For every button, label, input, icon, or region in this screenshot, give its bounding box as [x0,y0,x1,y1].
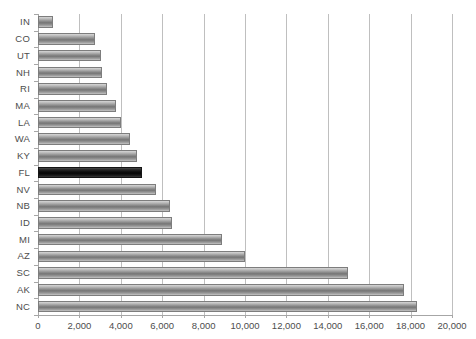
bar-az[interactable] [38,251,245,263]
bar-row [38,47,452,64]
x-axis-tick [38,315,39,318]
bar-nc[interactable] [38,301,417,313]
y-axis-label-nv: NV [0,185,30,195]
bar-row [38,131,452,148]
x-axis-labels: 02,0004,0006,0008,00010,00012,00014,0001… [0,318,476,338]
bar-row [38,14,452,31]
y-axis-label-fl: FL [0,168,30,178]
x-axis-label-14000: 14,000 [313,321,342,331]
y-axis-label-id: ID [0,218,30,228]
bar-mi[interactable] [38,234,222,246]
grid-line-20000 [452,14,453,315]
y-axis-tick [34,47,38,48]
x-axis-tick [369,315,370,318]
y-axis-label-la: LA [0,118,30,128]
y-axis-tick [34,265,38,266]
bar-row [38,181,452,198]
y-axis-label-ma: MA [0,101,30,111]
x-axis-label-12000: 12,000 [272,321,301,331]
y-axis-label-ky: KY [0,151,30,161]
x-axis-tick [328,315,329,318]
y-axis-tick [34,14,38,15]
bar-row [38,98,452,115]
x-axis-tick [121,315,122,318]
bar-in[interactable] [38,16,53,28]
y-axis-label-ri: RI [0,84,30,94]
bar-row [38,231,452,248]
bar-row [38,198,452,215]
x-axis-label-18000: 18,000 [396,321,425,331]
bar-ma[interactable] [38,100,116,112]
y-axis-tick [34,181,38,182]
y-axis-tick [34,148,38,149]
bar-wa[interactable] [38,133,130,145]
bar-row [38,165,452,182]
x-axis-label-16000: 16,000 [355,321,384,331]
bar-sc[interactable] [38,267,348,279]
bar-fl[interactable] [38,167,142,179]
bar-row [38,265,452,282]
x-axis-label-10000: 10,000 [230,321,259,331]
x-axis-label-6000: 6,000 [150,321,174,331]
y-axis-tick [34,131,38,132]
bar-ri[interactable] [38,83,107,95]
x-axis-label-8000: 8,000 [192,321,216,331]
bar-row [38,31,452,48]
y-axis-label-nb: NB [0,201,30,211]
x-axis-label-20000: 20,000 [437,321,466,331]
y-axis-label-nh: NH [0,68,30,78]
bar-nb[interactable] [38,200,170,212]
y-axis-tick [34,198,38,199]
bar-row [38,215,452,232]
x-axis-tick [245,315,246,318]
y-axis-label-mi: MI [0,235,30,245]
bar-ut[interactable] [38,50,101,62]
bar-row [38,282,452,299]
y-axis-label-wa: WA [0,134,30,144]
bar-co[interactable] [38,33,95,45]
bar-chart: INCOUTNHRIMALAWAKYFLNVNBIDMIAZSCAKNC 02,… [0,0,476,339]
bar-row [38,114,452,131]
y-axis-labels: INCOUTNHRIMALAWAKYFLNVNBIDMIAZSCAKNC [0,14,34,315]
x-axis-tick [411,315,412,318]
bar-row [38,298,452,315]
y-axis-label-sc: SC [0,268,30,278]
y-axis-label-az: AZ [0,251,30,261]
x-axis-label-0: 0 [35,321,40,331]
y-axis-tick [34,298,38,299]
bar-ky[interactable] [38,150,137,162]
y-axis-label-ut: UT [0,51,30,61]
x-axis-tick [204,315,205,318]
y-axis-tick [34,231,38,232]
bar-row [38,248,452,265]
x-axis-label-4000: 4,000 [109,321,133,331]
bar-nh[interactable] [38,67,102,79]
bar-nv[interactable] [38,184,156,196]
bar-row [38,148,452,165]
bar-row [38,81,452,98]
x-axis-label-2000: 2,000 [68,321,92,331]
y-axis-label-co: CO [0,34,30,44]
y-axis-tick [34,215,38,216]
y-axis-tick [34,282,38,283]
bar-ak[interactable] [38,284,404,296]
bar-la[interactable] [38,117,121,129]
y-axis-tick [34,64,38,65]
y-axis-tick [34,98,38,99]
y-axis-label-ak: AK [0,285,30,295]
x-axis-tick [452,315,453,318]
y-axis-tick [34,31,38,32]
y-axis-label-nc: NC [0,302,30,312]
bars-layer [38,14,452,315]
y-axis-label-in: IN [0,17,30,27]
y-axis-tick [34,165,38,166]
x-axis-tick [79,315,80,318]
y-axis-tick [34,114,38,115]
x-axis-tick [286,315,287,318]
x-axis-tick [162,315,163,318]
bar-row [38,64,452,81]
y-axis-tick [34,81,38,82]
y-axis-tick [34,248,38,249]
bar-id[interactable] [38,217,172,229]
